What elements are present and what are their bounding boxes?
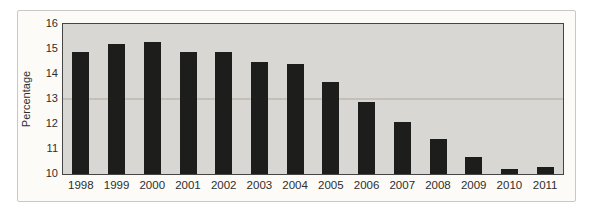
bar-2005 <box>322 82 339 175</box>
x-tick-label: 2010 <box>492 178 528 192</box>
x-tick-label: 2008 <box>420 178 456 192</box>
y-axis-labels: 16151413121110 <box>18 11 58 201</box>
y-tick-label: 11 <box>18 141 58 155</box>
bar-2001 <box>180 52 197 175</box>
bar-2007 <box>394 122 411 175</box>
y-tick-label: 12 <box>18 116 58 130</box>
x-tick-label: 2001 <box>170 178 206 192</box>
x-tick-label: 2002 <box>206 178 242 192</box>
y-tick-label: 16 <box>18 16 58 30</box>
x-tick-label: 1999 <box>99 178 135 192</box>
y-tick-label: 14 <box>18 66 58 80</box>
bar-2002 <box>215 52 232 175</box>
plot-area <box>62 23 564 175</box>
x-tick-label: 1998 <box>63 178 99 192</box>
bar-2008 <box>430 139 447 174</box>
x-tick-label: 2003 <box>242 178 278 192</box>
x-tick-label: 2007 <box>384 178 420 192</box>
scan-artifact-line <box>63 98 563 100</box>
bar-2000 <box>144 42 161 175</box>
y-tick-label: 13 <box>18 91 58 105</box>
x-tick-label: 2009 <box>456 178 492 192</box>
bar-2006 <box>358 102 375 175</box>
x-tick-label: 2006 <box>349 178 385 192</box>
x-tick-label: 2005 <box>313 178 349 192</box>
bar-2010 <box>501 169 518 174</box>
x-tick-label: 2004 <box>277 178 313 192</box>
bar-1999 <box>108 44 125 174</box>
bar-2009 <box>465 157 482 175</box>
bar-2004 <box>287 64 304 174</box>
bar-2011 <box>537 167 554 175</box>
bar-chart-figure: Percentage 16151413121110 19981999200020… <box>0 0 589 210</box>
bar-2003 <box>251 62 268 175</box>
x-axis-labels: 1998199920002001200220032004200520062007… <box>18 178 575 194</box>
x-tick-label: 2000 <box>134 178 170 192</box>
x-tick-label: 2011 <box>527 178 563 192</box>
chart-panel: Percentage 16151413121110 19981999200020… <box>17 10 576 202</box>
bar-1998 <box>72 52 89 175</box>
y-tick-label: 15 <box>18 41 58 55</box>
